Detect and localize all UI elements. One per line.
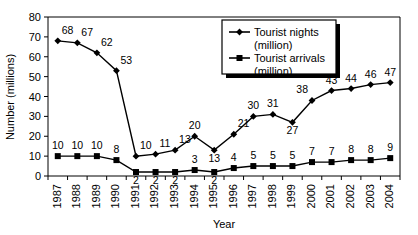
data-point-marker-square[interactable] bbox=[387, 155, 393, 161]
legend-label-unit-1: (million) bbox=[254, 39, 293, 51]
data-point-label: 47 bbox=[384, 66, 396, 78]
data-point-marker-square[interactable] bbox=[289, 163, 295, 169]
legend-label-unit-2: (million) bbox=[254, 65, 293, 77]
y-tick-label: 50 bbox=[29, 71, 41, 83]
data-point-label: 20 bbox=[189, 119, 201, 131]
data-point-marker-square[interactable] bbox=[329, 159, 335, 165]
y-tick-label: 10 bbox=[29, 150, 41, 162]
x-tick-label: 1999 bbox=[285, 184, 297, 208]
chart-container: 01020304050607080 1987198819891990199119… bbox=[0, 0, 418, 235]
data-point-label: 3 bbox=[192, 153, 198, 165]
x-axis-title: Year bbox=[213, 218, 236, 230]
data-point-label: 2 bbox=[211, 174, 217, 186]
x-tick-label: 2001 bbox=[324, 184, 336, 208]
data-point-marker-square[interactable] bbox=[55, 153, 61, 159]
data-point-marker-square[interactable] bbox=[94, 153, 100, 159]
data-point-marker-square[interactable] bbox=[74, 153, 80, 159]
data-point-label: 9 bbox=[387, 141, 393, 153]
data-point-label: 5 bbox=[250, 149, 256, 161]
x-tick-label: 2003 bbox=[364, 184, 376, 208]
data-point-label: 11 bbox=[160, 137, 171, 149]
x-tick-label: 2002 bbox=[344, 184, 356, 208]
y-tick-label: 40 bbox=[29, 91, 41, 103]
data-point-label: 27 bbox=[287, 124, 299, 136]
y-tick-label: 80 bbox=[29, 11, 41, 23]
data-point-label: 10 bbox=[71, 139, 83, 151]
x-tick-label: 1995 bbox=[207, 184, 219, 208]
y-axis-title: Number (millions) bbox=[4, 54, 16, 140]
x-tick-label: 1997 bbox=[246, 184, 258, 208]
x-tick-label: 1991 bbox=[129, 184, 141, 208]
data-point-label: 5 bbox=[290, 149, 296, 161]
data-point-label: 10 bbox=[52, 139, 64, 151]
x-tick-label: 1990 bbox=[109, 184, 121, 208]
data-point-label: 68 bbox=[62, 24, 74, 36]
y-tick-label: 0 bbox=[35, 170, 41, 182]
data-point-label: 7 bbox=[329, 145, 335, 157]
x-tick-label: 1989 bbox=[90, 184, 102, 208]
data-point-label: 4 bbox=[231, 151, 237, 163]
data-point-marker-square[interactable] bbox=[250, 163, 256, 169]
x-tick-label: 1993 bbox=[168, 184, 180, 208]
x-tick-label: 1992 bbox=[148, 184, 160, 208]
legend-label-1: Tourist nights bbox=[254, 26, 319, 38]
legend-label-2: Tourist arrivals bbox=[254, 52, 325, 64]
data-point-marker-square[interactable] bbox=[368, 157, 374, 163]
data-point-label: 62 bbox=[101, 36, 113, 48]
chart-legend[interactable]: Tourist nights(million)Tourist arrivals(… bbox=[222, 20, 340, 78]
data-point-label: 7 bbox=[309, 145, 315, 157]
data-point-label: 5 bbox=[270, 149, 276, 161]
tourism-line-chart: 01020304050607080 1987198819891990199119… bbox=[0, 0, 418, 235]
data-point-label: 44 bbox=[345, 72, 357, 84]
data-point-label: 2 bbox=[153, 174, 159, 186]
data-point-label: 46 bbox=[365, 68, 377, 80]
data-point-label: 30 bbox=[247, 99, 259, 111]
y-tick-label: 20 bbox=[29, 130, 41, 142]
data-point-marker-square[interactable] bbox=[113, 157, 119, 163]
data-point-label: 13 bbox=[179, 133, 191, 145]
data-point-label: 8 bbox=[348, 143, 354, 155]
legend-marker-square bbox=[237, 55, 243, 61]
x-tick-label: 1998 bbox=[266, 184, 278, 208]
data-point-label: 8 bbox=[368, 143, 374, 155]
data-point-label: 10 bbox=[91, 139, 103, 151]
data-point-marker-square[interactable] bbox=[309, 159, 315, 165]
y-tick-label: 70 bbox=[29, 31, 41, 43]
data-point-marker-square[interactable] bbox=[270, 163, 276, 169]
x-tick-label: 1996 bbox=[227, 184, 239, 208]
data-point-marker-square[interactable] bbox=[348, 157, 354, 163]
x-tick-label: 1987 bbox=[51, 184, 63, 208]
y-tick-label: 60 bbox=[29, 51, 41, 63]
data-point-label: 67 bbox=[81, 26, 93, 38]
x-tick-label: 2000 bbox=[305, 184, 317, 208]
data-point-marker-square[interactable] bbox=[192, 167, 198, 173]
data-point-label: 2 bbox=[172, 174, 178, 186]
data-point-label: 8 bbox=[114, 143, 120, 155]
data-point-label: 31 bbox=[267, 97, 279, 109]
data-point-label: 21 bbox=[238, 117, 250, 129]
data-point-label: 53 bbox=[120, 54, 132, 66]
data-point-marker-square[interactable] bbox=[231, 165, 237, 171]
data-point-label: 2 bbox=[133, 174, 139, 186]
x-tick-label: 2004 bbox=[383, 184, 395, 208]
data-point-label: 10 bbox=[140, 139, 152, 151]
x-tick-label: 1988 bbox=[70, 184, 82, 208]
y-tick-label: 30 bbox=[29, 110, 41, 122]
x-tick-label: 1994 bbox=[188, 184, 200, 208]
y-axis-tick-labels: 01020304050607080 bbox=[29, 11, 41, 182]
data-point-label: 38 bbox=[296, 83, 308, 95]
data-point-label: 13 bbox=[208, 152, 220, 164]
